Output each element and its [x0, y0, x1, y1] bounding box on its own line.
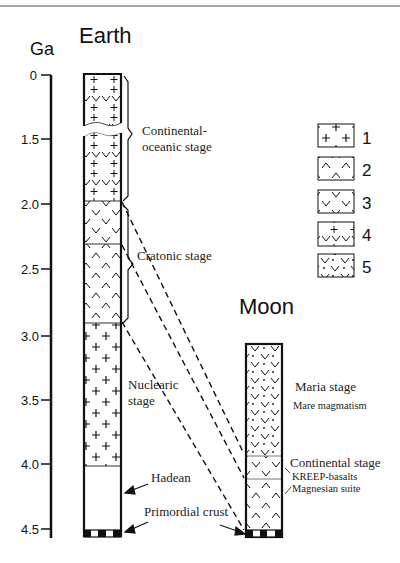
stage-label-cratonic: Cratonic stage — [137, 248, 212, 263]
tick-label: 0 — [30, 68, 37, 83]
axis-unit-label: Ga — [30, 39, 55, 59]
age-axis: Ga 0 1.5 2.0 2.5 3.0 3.5 4.0 4.5 — [21, 39, 55, 538]
tick-label: 3.5 — [21, 393, 39, 408]
earth-caret-segment — [84, 244, 121, 323]
legend-number: 5 — [362, 258, 371, 277]
stage-label-nuclearic: Nuclearic — [128, 377, 179, 392]
primordial-crust-label: Primordial crust — [144, 504, 229, 519]
continental-stage-label: Continental stage — [290, 455, 381, 470]
stage-label-nuclearic-2: stage — [128, 393, 155, 408]
kreep-basalts-label: KREEP-basalts — [292, 471, 357, 482]
maria-stage-label: Maria stage — [295, 379, 356, 394]
legend-number: 3 — [362, 194, 371, 213]
earth-cross-segment — [84, 323, 121, 466]
moon-kreep-segment — [246, 456, 282, 479]
hadean-label: Hadean — [151, 470, 191, 485]
legend-item-4: 4 — [318, 222, 371, 246]
legend-item-5: 5 — [318, 254, 371, 277]
legend: 1 2 3 4 5 — [318, 124, 371, 277]
earth-title: Earth — [79, 23, 132, 48]
tick-label: 4.0 — [21, 457, 39, 472]
earth-column — [84, 74, 121, 537]
mare-magmatism-label: Mare magmatism — [293, 400, 367, 411]
moon-magnesian-segment — [246, 479, 282, 530]
earth-vee-segment — [84, 201, 121, 244]
tick-label: 3.0 — [21, 329, 39, 344]
stage-label-continental-oceanic-2: oceanic stage — [142, 139, 212, 154]
moon-column — [246, 344, 282, 537]
crust-evolution-diagram: Ga 0 1.5 2.0 2.5 3.0 3.5 4.0 4.5 Earth — [0, 0, 400, 563]
stage-label-continental-oceanic: Continental- — [142, 123, 207, 138]
moon-title: Moon — [239, 294, 294, 319]
legend-number: 2 — [362, 161, 371, 180]
magnesian-suite-label: Magnesian suite — [292, 483, 361, 494]
tick-label: 2.0 — [21, 197, 39, 212]
legend-number: 1 — [362, 129, 371, 148]
legend-item-2: 2 — [318, 157, 371, 180]
legend-item-1: 1 — [318, 124, 371, 148]
earth-stage-brackets — [123, 76, 133, 323]
legend-item-3: 3 — [318, 190, 371, 213]
tick-label: 4.5 — [21, 522, 39, 537]
moon-maria-segment — [246, 344, 282, 456]
tick-label: 1.5 — [21, 132, 39, 147]
earth-continental-oceanic-segment — [84, 133, 121, 201]
legend-number: 4 — [362, 226, 371, 245]
earth-upper-segment — [84, 74, 121, 126]
tick-label: 2.5 — [21, 262, 39, 277]
